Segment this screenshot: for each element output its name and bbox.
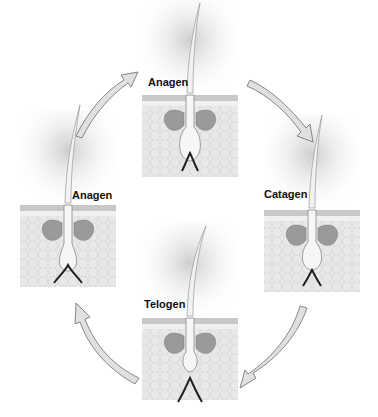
label-telogen: Telogen <box>144 298 185 310</box>
arrow-telogen-to-anagen-left <box>75 303 139 384</box>
label-catagen: Catagen <box>264 188 307 200</box>
stage-anagen-top <box>142 0 238 177</box>
label-anagen-left: Anagen <box>72 189 112 201</box>
label-anagen-top: Anagen <box>148 76 188 88</box>
stage-telogen <box>142 223 238 402</box>
arrow-catagen-to-telogen <box>240 306 307 388</box>
hair-cycle-diagram <box>0 0 378 417</box>
